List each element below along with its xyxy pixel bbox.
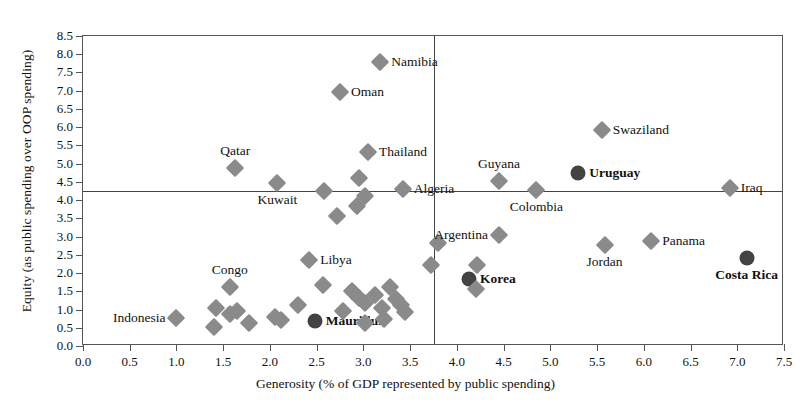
point-label: Libya xyxy=(320,252,352,268)
x-tick-label: 5.5 xyxy=(589,354,605,370)
data-point[interactable] xyxy=(350,169,368,187)
x-tick-label: 4.0 xyxy=(449,354,465,370)
point-label: Uruguay xyxy=(589,165,640,181)
y-tick-label: 8.0 xyxy=(57,46,73,62)
y-tick-label: 1.5 xyxy=(57,283,73,299)
x-tick-label: 2.5 xyxy=(309,354,325,370)
y-tick-mark xyxy=(76,164,83,165)
x-tick-label: 6.5 xyxy=(682,354,698,370)
x-tick-mark xyxy=(550,344,551,351)
x-tick-mark xyxy=(691,344,692,351)
y-tick-mark xyxy=(76,182,83,183)
y-tick-label: 3.0 xyxy=(57,229,73,245)
x-tick-label: 5.0 xyxy=(542,354,558,370)
x-tick-mark xyxy=(317,344,318,351)
data-point[interactable] xyxy=(268,174,286,192)
data-point[interactable] xyxy=(721,179,739,197)
data-point[interactable] xyxy=(221,277,239,295)
x-tick-label: 0.5 xyxy=(122,354,138,370)
y-tick-label: 4.5 xyxy=(57,174,73,190)
y-tick-mark xyxy=(76,109,83,110)
y-tick-label: 7.5 xyxy=(57,64,73,80)
point-label: Iraq xyxy=(741,180,763,196)
data-point[interactable] xyxy=(593,121,611,139)
y-tick-label: 5.5 xyxy=(57,137,73,153)
data-point[interactable] xyxy=(490,226,508,244)
data-point[interactable] xyxy=(167,308,185,326)
data-point[interactable] xyxy=(421,256,439,274)
y-tick-mark xyxy=(76,237,83,238)
y-tick-mark xyxy=(76,218,83,219)
x-tick-mark xyxy=(176,344,177,351)
x-tick-mark xyxy=(130,344,131,351)
data-point[interactable] xyxy=(205,318,223,336)
y-tick-label: 1.0 xyxy=(57,302,73,318)
point-label: Namibia xyxy=(391,54,438,70)
data-point[interactable] xyxy=(314,276,332,294)
data-point[interactable] xyxy=(595,235,613,253)
y-tick-mark xyxy=(76,145,83,146)
data-point-highlighted[interactable] xyxy=(739,250,754,265)
y-tick-mark xyxy=(76,36,83,37)
data-point[interactable] xyxy=(226,159,244,177)
scatter-chart-figure: Equity (as public spending over OOP spen… xyxy=(0,0,811,416)
x-tick-mark xyxy=(784,344,785,351)
y-tick-mark xyxy=(76,346,83,347)
point-label: Costa Rica xyxy=(715,267,778,283)
x-tick-label: 2.0 xyxy=(262,354,278,370)
x-tick-mark xyxy=(410,344,411,351)
data-point[interactable] xyxy=(289,296,307,314)
x-tick-mark xyxy=(223,344,224,351)
data-point[interactable] xyxy=(300,251,318,269)
data-point[interactable] xyxy=(371,52,389,70)
data-point[interactable] xyxy=(527,181,545,199)
point-label: Colombia xyxy=(510,199,563,215)
data-point-highlighted[interactable] xyxy=(571,165,586,180)
data-point[interactable] xyxy=(240,314,258,332)
y-tick-label: 0.5 xyxy=(57,320,73,336)
y-tick-mark xyxy=(76,291,83,292)
y-tick-label: 2.0 xyxy=(57,265,73,281)
point-label: Kuwait xyxy=(258,192,298,208)
y-tick-label: 7.0 xyxy=(57,83,73,99)
data-point[interactable] xyxy=(393,180,411,198)
point-label: Swaziland xyxy=(613,122,669,138)
data-point[interactable] xyxy=(359,142,377,160)
point-label: Guyana xyxy=(478,156,520,172)
x-tick-mark xyxy=(363,344,364,351)
point-label: Panama xyxy=(662,233,705,249)
x-tick-mark xyxy=(504,344,505,351)
point-label: Thailand xyxy=(379,144,427,160)
x-tick-mark xyxy=(597,344,598,351)
y-tick-mark xyxy=(76,328,83,329)
point-label: Algeria xyxy=(414,181,454,197)
y-tick-label: 0.0 xyxy=(57,338,73,354)
point-label: Mauritius xyxy=(326,313,384,329)
plot-area: 0.00.51.01.52.02.53.03.54.04.55.05.56.06… xyxy=(82,35,783,345)
data-point[interactable] xyxy=(490,172,508,190)
y-tick-label: 4.0 xyxy=(57,192,73,208)
x-tick-label: 1.0 xyxy=(168,354,184,370)
x-tick-label: 6.0 xyxy=(636,354,652,370)
y-tick-mark xyxy=(76,310,83,311)
y-tick-mark xyxy=(76,72,83,73)
y-tick-mark xyxy=(76,273,83,274)
x-axis-title: Generosity (% of GDP represented by publ… xyxy=(0,376,811,392)
y-tick-label: 8.5 xyxy=(57,28,73,44)
point-label: Jordan xyxy=(587,254,623,270)
data-point[interactable] xyxy=(642,232,660,250)
y-tick-label: 6.5 xyxy=(57,101,73,117)
x-tick-mark xyxy=(644,344,645,351)
data-point-highlighted[interactable] xyxy=(307,314,322,329)
point-label: Congo xyxy=(212,262,248,278)
data-point[interactable] xyxy=(328,207,346,225)
x-tick-mark xyxy=(737,344,738,351)
y-tick-mark xyxy=(76,54,83,55)
data-point[interactable] xyxy=(331,83,349,101)
y-tick-mark xyxy=(76,91,83,92)
data-point[interactable] xyxy=(315,181,333,199)
point-label: Korea xyxy=(480,271,516,287)
y-tick-mark xyxy=(76,255,83,256)
y-tick-label: 6.0 xyxy=(57,119,73,135)
x-tick-label: 4.5 xyxy=(495,354,511,370)
